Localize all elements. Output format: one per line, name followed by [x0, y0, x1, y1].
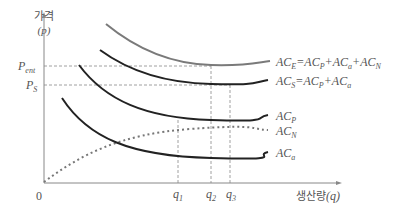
ac-n-curve	[44, 127, 268, 182]
y-axis-title-var: (p)	[30, 24, 58, 38]
x-axis-title: 생산량(q)	[296, 190, 340, 202]
x-axis-arrow-icon	[336, 181, 342, 185]
q2-label: q2	[206, 188, 216, 203]
p-s-label: PS	[26, 79, 37, 94]
cost-curves-chart	[0, 0, 403, 210]
y-axis-title-text: 가격	[30, 10, 58, 24]
origin-label: 0	[36, 190, 42, 202]
ac-e-label: ACE=ACP+ACa+ACN	[276, 56, 381, 71]
ac-a-curve	[62, 98, 268, 159]
ac-s-curve	[100, 50, 268, 84]
ac-s-label: ACS=ACP+ACa	[276, 75, 351, 90]
ac-n-label: ACN	[276, 125, 297, 140]
x-axis-title-text: 생산량	[296, 190, 326, 203]
q3-label: q3	[226, 188, 236, 203]
x-axis-title-var: (q)	[326, 189, 340, 203]
y-axis-title: 가격 (p)	[30, 10, 58, 38]
p-ent-label: Pent	[18, 60, 35, 75]
ac-a-label: ACa	[276, 147, 295, 162]
ac-e-curve	[106, 24, 270, 65]
ac-p-curve	[79, 65, 268, 121]
q1-label: q1	[173, 188, 183, 203]
